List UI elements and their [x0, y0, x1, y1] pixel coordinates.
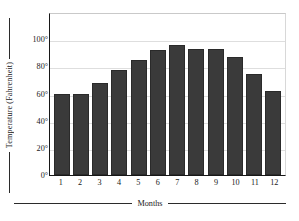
bar — [169, 45, 185, 175]
y-axis-tick-label: 20° — [22, 145, 48, 153]
bar-slot — [264, 14, 283, 175]
plot-area — [49, 13, 286, 176]
y-axis-label-group: Temperature (Fahrenheit) — [0, 18, 18, 193]
bar-slot — [225, 14, 244, 175]
bar — [208, 49, 224, 175]
x-axis-tick-label: 12 — [265, 179, 284, 192]
y-axis-tick-label: 60° — [22, 91, 48, 99]
bar-slot — [91, 14, 110, 175]
y-axis-label: Temperature (Fahrenheit) — [5, 59, 14, 151]
x-axis-tick-label: 6 — [148, 179, 167, 192]
x-axis-tick-label: 2 — [70, 179, 89, 192]
bar — [54, 94, 70, 176]
x-axis-tick-label: 8 — [187, 179, 206, 192]
bar-slot — [129, 14, 148, 175]
bar — [188, 49, 204, 175]
bar — [227, 57, 243, 175]
x-axis-label-group: Months — [14, 196, 286, 210]
bar-slot — [148, 14, 167, 175]
x-axis-tick-label: 5 — [129, 179, 148, 192]
bar-chart-figure: Temperature (Fahrenheit) 0°20°40°60°80°1… — [0, 0, 299, 221]
x-axis-tick-label: 1 — [51, 179, 70, 192]
bar — [265, 91, 281, 175]
y-axis-tick-label: 100° — [22, 36, 48, 44]
x-axis-tick-label: 4 — [109, 179, 128, 192]
y-axis-label-rule-bottom — [9, 152, 10, 193]
bar — [73, 94, 89, 176]
bar — [131, 60, 147, 175]
bar-slot — [110, 14, 129, 175]
bar — [150, 50, 166, 175]
y-axis-tick-label: 80° — [22, 63, 48, 71]
x-axis-tick-label: 11 — [245, 179, 264, 192]
x-axis-tick-label: 9 — [206, 179, 225, 192]
x-axis-label-rule-left — [14, 203, 132, 204]
y-axis-tick-label: 0° — [22, 172, 48, 180]
x-axis-label-rule-right — [168, 203, 286, 204]
y-axis-ticks: 0°20°40°60°80°100° — [20, 0, 48, 221]
bar — [92, 83, 108, 175]
bar-slot — [245, 14, 264, 175]
x-axis-label: Months — [132, 199, 167, 208]
bar-series — [50, 14, 285, 175]
x-axis-ticks: 123456789101112 — [49, 179, 286, 192]
y-axis-label-rule-top — [9, 18, 10, 59]
x-axis-tick-label: 7 — [168, 179, 187, 192]
bar-slot — [71, 14, 90, 175]
bar-slot — [52, 14, 71, 175]
bar-slot — [206, 14, 225, 175]
bar-slot — [187, 14, 206, 175]
x-axis-tick-label: 3 — [90, 179, 109, 192]
bar-slot — [168, 14, 187, 175]
y-axis-tick-label: 40° — [22, 118, 48, 126]
bar — [246, 74, 262, 175]
bar — [111, 70, 127, 175]
x-axis-tick-label: 10 — [226, 179, 245, 192]
